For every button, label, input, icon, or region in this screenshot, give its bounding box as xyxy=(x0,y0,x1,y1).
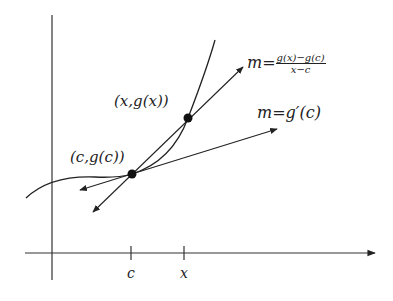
secant-lhs: m= xyxy=(247,53,276,72)
secant-numerator: g(x)−g(c) xyxy=(276,52,326,64)
point-c-label: (c,g(c)) xyxy=(70,148,125,166)
secant-denominator: x−c xyxy=(291,64,311,75)
point-x xyxy=(184,114,193,123)
secant-fraction: g(x)−g(c)x−c xyxy=(276,52,326,75)
secant-line xyxy=(93,67,243,212)
secant-slope-label: m=g(x)−g(c)x−c xyxy=(247,52,326,75)
diagram-canvas xyxy=(0,0,393,301)
tick-label-c: c xyxy=(127,265,135,281)
point-x-label: (x,g(x)) xyxy=(114,92,169,110)
tick-label-x: x xyxy=(180,265,188,281)
point-c xyxy=(128,170,137,179)
tangent-slope-label: m=g′(c) xyxy=(257,103,321,122)
